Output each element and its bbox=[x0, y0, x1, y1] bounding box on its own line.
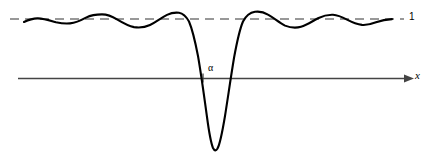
x-axis-arrow-icon bbox=[404, 75, 414, 83]
function-curve bbox=[24, 12, 392, 151]
asymptote-value-label: 1 bbox=[409, 12, 415, 22]
plot-canvas bbox=[0, 0, 430, 162]
x-axis-label: x bbox=[415, 70, 420, 81]
figure-container: 1 α x bbox=[0, 0, 430, 162]
alpha-label: α bbox=[208, 63, 213, 73]
